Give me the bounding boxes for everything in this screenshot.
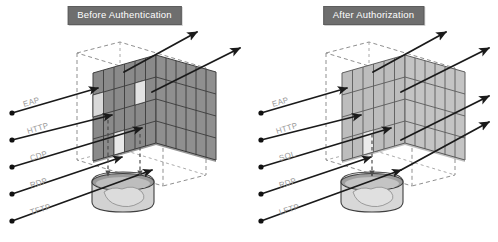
protocol-label-rdp: RDP — [278, 176, 298, 190]
before-authentication-artwork: EAP HTTP CDP RDP TFTP — [0, 0, 249, 242]
after-authorization-artwork: EAP HTTP SQL RDP LFTP — [249, 0, 498, 242]
protocol-label-rdp: RDP — [29, 176, 49, 190]
panel-after-authorization: After Authorization — [249, 0, 498, 242]
policy-grid-wall-before — [93, 55, 216, 163]
data-store-before — [92, 172, 154, 212]
panel-before-authentication: Before Authentication — [0, 0, 249, 242]
policy-grid-wall-after — [342, 55, 465, 163]
protocol-label-lftp: LFTP — [278, 202, 300, 217]
protocol-label-cdp: CDP — [29, 149, 49, 163]
diagram-canvas: Before Authentication — [0, 0, 498, 242]
protocol-label-tftp: TFTP — [29, 202, 52, 217]
protocol-label-sql: SQL — [278, 149, 297, 163]
data-store-after — [341, 172, 403, 212]
protocol-labels-before: EAP HTTP CDP RDP TFTP — [22, 95, 52, 217]
protocol-labels-after: EAP HTTP SQL RDP LFTP — [271, 95, 300, 217]
